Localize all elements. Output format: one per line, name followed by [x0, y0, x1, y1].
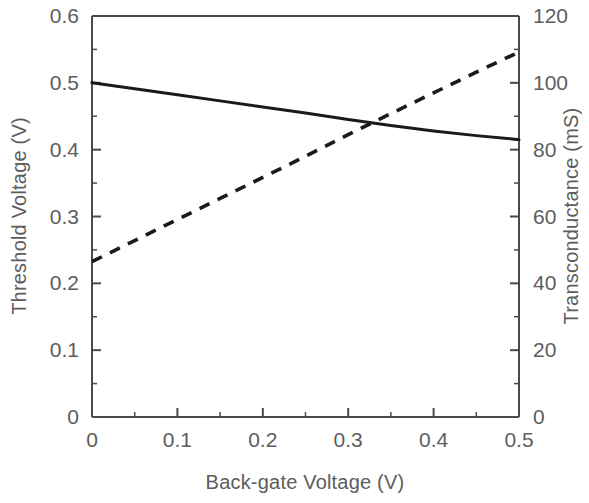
y-tick-label: 0.4 — [50, 138, 80, 161]
y2-tick-label: 120 — [533, 4, 568, 27]
y-tick-label: 0 — [67, 405, 79, 428]
y2-axis-title: Transconductance (mS) — [560, 108, 582, 325]
y2-tick-label: 80 — [533, 138, 556, 161]
y2-tick-label: 0 — [533, 405, 545, 428]
x-tick-label: 0.4 — [419, 428, 449, 451]
y2-tick-label: 60 — [533, 205, 556, 228]
y-tick-label: 0.1 — [50, 338, 79, 361]
x-tick-label: 0.1 — [163, 428, 192, 451]
threshold-voltage-transconductance-chart: 00.10.20.30.40.5 00.10.20.30.40.50.6 020… — [0, 0, 589, 503]
y-tick-label: 0.6 — [50, 4, 79, 27]
chart-figure: 00.10.20.30.40.5 00.10.20.30.40.50.6 020… — [0, 0, 589, 503]
y-tick-label: 0.2 — [50, 271, 79, 294]
y-tick-label: 0.3 — [50, 205, 79, 228]
x-axis-title: Back-gate Voltage (V) — [206, 471, 405, 493]
x-tick-label: 0.5 — [504, 428, 533, 451]
x-tick-label: 0.3 — [334, 428, 363, 451]
x-tick-label: 0 — [86, 428, 98, 451]
y2-tick-label: 100 — [533, 71, 568, 94]
y-tick-label: 0.5 — [50, 71, 79, 94]
y2-tick-label: 40 — [533, 271, 556, 294]
y-axis-title: Threshold Voltage (V) — [8, 117, 30, 315]
x-tick-label: 0.2 — [248, 428, 277, 451]
y2-tick-label: 20 — [533, 338, 556, 361]
